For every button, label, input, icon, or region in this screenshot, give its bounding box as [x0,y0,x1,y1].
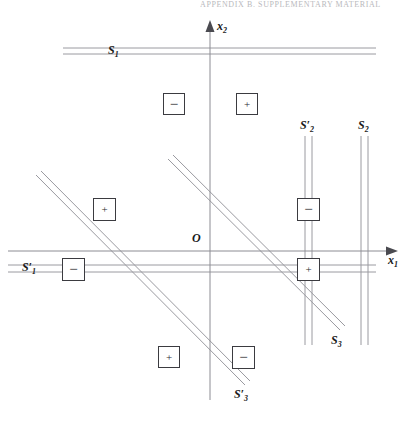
line-label-S3: S3 [331,334,342,349]
sign-box-plus-bottom-left: + [158,346,180,368]
sign-box-minus-bottom-right: − [232,346,255,369]
axis-x2 [206,20,215,400]
sign-box-minus-mid-right: − [297,198,320,221]
axis-label-x1: x1 [388,254,398,269]
line-S2-prime [305,136,312,345]
axis-label-x2: x2 [217,20,227,35]
sign-box-plus-mid-left: + [93,198,116,221]
sign-box-minus-axis-left: − [62,258,85,281]
line-label-S1: S1 [108,44,119,59]
origin-label: O [192,231,201,246]
line-label-S3-prime: S′3 [234,388,248,403]
line-S2 [361,136,368,345]
axis-x1 [8,247,398,256]
sign-box-plus-top-right: + [236,93,258,115]
line-label-S2-prime: S′2 [300,119,314,134]
sign-box-plus-axis-right: + [297,258,320,281]
line-label-S1-prime: S′1 [22,261,36,276]
line-label-S2: S2 [358,119,369,134]
hyperplane-diagram [0,0,415,436]
sign-box-minus-top-left: − [163,93,185,115]
